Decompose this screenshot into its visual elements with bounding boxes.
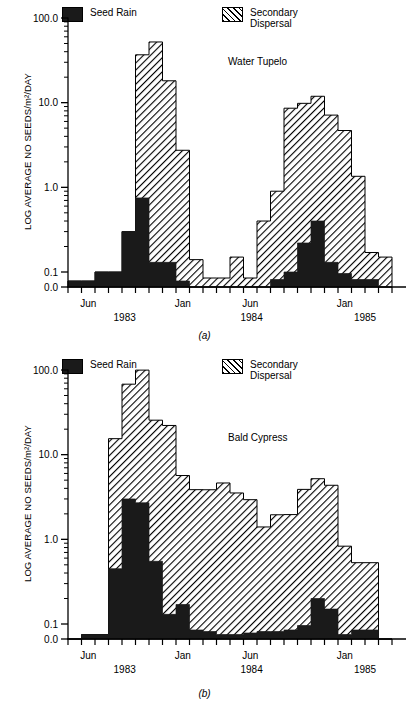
x-axis-tick-label: Jan (337, 650, 353, 661)
x-axis-tick-label: Jan (175, 650, 191, 661)
x-axis-year-label: 1983 (114, 664, 137, 675)
plot-area-a: 100.010.01.00.10.0JunJanJunJan1983198419… (0, 0, 409, 352)
x-axis-tick-label: Jun (80, 650, 96, 661)
y-axis-tick-label: 1.0 (44, 534, 58, 545)
y-axis-tick-label: 100.0 (33, 13, 58, 24)
y-axis-tick-label: 0.0 (44, 282, 58, 293)
panel-water-tupelo: Seed Rain Secondary Dispersal LOG AVERAG… (0, 0, 409, 352)
subfigure-label-a: (a) (0, 330, 409, 341)
x-axis-year-label: 1984 (240, 312, 263, 323)
y-axis-tick-label: 100.0 (33, 365, 58, 376)
x-axis-year-label: 1984 (240, 664, 263, 675)
plot-area-b: 100.010.01.00.10.0JunJanJunJan1983198419… (0, 352, 409, 704)
x-axis-year-label: 1985 (354, 664, 377, 675)
y-axis-tick-label: 10.0 (39, 97, 59, 108)
figure-container: Seed Rain Secondary Dispersal LOG AVERAG… (0, 0, 409, 705)
x-axis-tick-label: Jun (242, 298, 258, 309)
y-axis-tick-label: 10.0 (39, 449, 59, 460)
subfigure-label-b: (b) (0, 688, 409, 699)
x-axis-year-label: 1983 (114, 312, 137, 323)
y-axis-tick-label: 0.1 (44, 267, 58, 278)
x-axis-tick-label: Jun (242, 650, 258, 661)
y-axis-tick-label: 0.1 (44, 619, 58, 630)
x-axis-tick-label: Jun (80, 298, 96, 309)
panel-bald-cypress: Seed Rain Secondary Dispersal LOG AVERAG… (0, 352, 409, 704)
x-axis-tick-label: Jan (337, 298, 353, 309)
x-axis-tick-label: Jan (175, 298, 191, 309)
y-axis-tick-label: 0.0 (44, 634, 58, 645)
y-axis-tick-label: 1.0 (44, 182, 58, 193)
secondary-dispersal-area (68, 42, 392, 287)
x-axis-year-label: 1985 (354, 312, 377, 323)
